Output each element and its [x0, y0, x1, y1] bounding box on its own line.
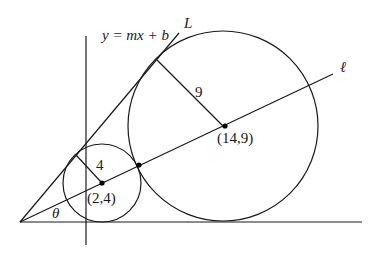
line-L-label: L [183, 15, 192, 31]
small-radius-label: 4 [96, 157, 104, 173]
line-ell-label: ℓ [340, 59, 346, 75]
large-center-label: (14,9) [217, 130, 253, 147]
small-center-point [99, 180, 104, 185]
angle-theta-label: θ [52, 205, 60, 221]
line-equation-label: y = mx + b [100, 27, 169, 43]
tangent-circles-diagram: y = mx + b L ℓ θ 4 9 (2,4) (14,9) [0, 0, 378, 254]
tangency-point [136, 162, 141, 167]
small-center-label: (2,4) [87, 190, 116, 207]
large-radius-label: 9 [195, 84, 203, 100]
large-radius-segment [157, 60, 223, 126]
large-center-point [222, 123, 227, 128]
